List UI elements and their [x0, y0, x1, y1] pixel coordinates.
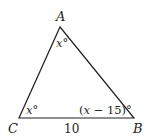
angle-label-a: x°	[56, 36, 68, 50]
triangle-diagram: A C B 10 x° x° (x − 15)°	[0, 0, 149, 137]
vertex-label-a: A	[55, 9, 65, 24]
side-length-cb: 10	[64, 122, 79, 136]
vertex-label-c: C	[8, 121, 18, 136]
angle-label-b: (x − 15)°	[79, 103, 132, 117]
angle-label-c: x°	[26, 103, 38, 117]
vertex-label-b: B	[132, 121, 143, 136]
